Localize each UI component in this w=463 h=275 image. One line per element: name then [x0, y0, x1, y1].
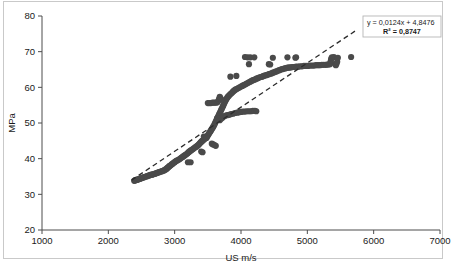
- y-tick-label: 70: [24, 46, 35, 57]
- x-tick-label: 3000: [164, 235, 185, 246]
- scatter-point: [233, 73, 239, 79]
- x-tick-label: 4000: [230, 235, 251, 246]
- scatter-point: [267, 61, 273, 67]
- scatter-point: [213, 143, 219, 149]
- y-tick-label: 40: [24, 153, 35, 164]
- scatter-point: [348, 54, 354, 60]
- scatter-point: [253, 108, 259, 114]
- y-tick-label: 30: [24, 189, 35, 200]
- scatter-point: [187, 159, 193, 165]
- x-tick-label: 5000: [297, 235, 318, 246]
- scatter-point: [335, 55, 341, 61]
- y-tick-label: 50: [24, 117, 35, 128]
- chart-figure: 2030405060708010002000300040005000600070…: [0, 0, 463, 275]
- x-tick-label: 7000: [429, 235, 450, 246]
- scatter-point: [246, 61, 252, 67]
- y-axis-title: MPa: [6, 113, 17, 133]
- r-squared-label: R² = 0,8747: [383, 27, 421, 36]
- scatter-point: [203, 135, 209, 141]
- scatter-point: [199, 149, 205, 155]
- x-tick-label: 6000: [363, 235, 384, 246]
- y-tick-label: 80: [24, 10, 35, 21]
- scatter-point: [293, 54, 299, 60]
- scatter-point: [284, 54, 290, 60]
- y-tick-label: 20: [24, 224, 35, 235]
- scatter-point: [218, 96, 224, 102]
- scatter-point: [270, 55, 276, 61]
- scatter-point: [251, 54, 257, 60]
- scatter-points-group: [131, 54, 354, 184]
- scatter-plot: 2030405060708010002000300040005000600070…: [0, 0, 463, 275]
- x-tick-label: 1000: [31, 235, 52, 246]
- y-tick-label: 60: [24, 82, 35, 93]
- trendline: [132, 30, 358, 180]
- scatter-point: [227, 74, 233, 80]
- x-tick-label: 2000: [98, 235, 119, 246]
- x-axis-title: US m/s: [225, 252, 256, 263]
